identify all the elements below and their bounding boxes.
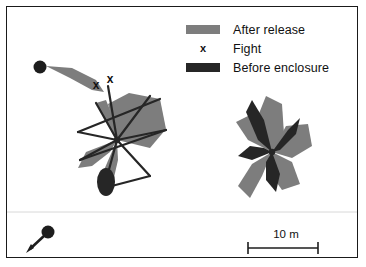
legend-item-before-enclosure: Before enclosure: [186, 58, 346, 77]
legend-label-fight: Fight: [233, 42, 261, 56]
after-release-swatch-icon: [186, 25, 220, 34]
fight-x-marker: x: [93, 78, 100, 92]
legend-label-after-release: After release: [233, 23, 305, 37]
scale-bar: [248, 242, 318, 254]
before-enclosure-track: [78, 132, 117, 140]
fight-x-icon: x: [186, 44, 220, 53]
track-hub: [269, 149, 275, 155]
track-start-point: [34, 61, 47, 74]
legend-label-before-enclosure: Before enclosure: [233, 61, 329, 75]
legend-item-fight: x Fight: [186, 39, 346, 58]
scale-bar-label-wrap: 10 m: [244, 228, 328, 241]
fight-x-marker: x: [107, 72, 114, 86]
release-point-arrow: [26, 226, 55, 254]
before-enclosure-blob: [97, 168, 115, 196]
legend: After release x Fight Before enclosure: [186, 20, 346, 77]
figure-container: xx 10 m After release x Fight Before: [0, 0, 366, 267]
legend-item-after-release: After release: [186, 20, 346, 39]
before-enclosure-swatch-icon: [186, 63, 220, 72]
track-hub: [114, 137, 120, 143]
scale-bar-label: 10 m: [244, 228, 328, 240]
